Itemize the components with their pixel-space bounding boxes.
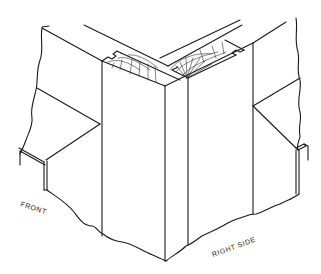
label-front: FRONT bbox=[20, 200, 48, 215]
right-side-wall bbox=[166, 18, 308, 261]
front-wall bbox=[19, 26, 166, 261]
label-right-side: RIGHT SIDE bbox=[211, 236, 257, 258]
corner-post bbox=[84, 20, 253, 261]
corner-detail-drawing: FRONT RIGHT SIDE bbox=[0, 0, 321, 274]
